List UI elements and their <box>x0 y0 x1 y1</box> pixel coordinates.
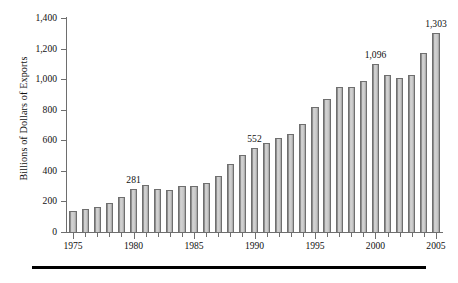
x-tick-mark <box>109 233 110 237</box>
y-tick-label: 200 <box>43 196 57 206</box>
x-tick-label: 1985 <box>174 241 214 251</box>
x-tick-mark <box>339 233 340 237</box>
y-tick-mark <box>61 18 66 19</box>
bar <box>275 138 282 232</box>
x-tick-label: 2000 <box>355 241 395 251</box>
y-tick-mark <box>61 201 66 202</box>
bar <box>118 197 125 232</box>
bar <box>69 211 76 232</box>
bar-value-label: 552 <box>233 134 277 144</box>
y-tick-label: 1,000 <box>35 74 57 84</box>
bar <box>348 87 355 232</box>
x-tick-mark <box>182 233 183 237</box>
x-tick-mark <box>363 233 364 237</box>
bar <box>372 64 379 232</box>
x-tick-mark <box>436 233 437 239</box>
bar <box>251 148 258 232</box>
x-tick-label: 1995 <box>295 241 335 251</box>
y-tick-mark <box>61 140 66 141</box>
x-tick-label: 1980 <box>114 241 154 251</box>
bar <box>408 75 415 232</box>
bar <box>239 155 246 232</box>
x-tick-mark <box>327 233 328 237</box>
bar <box>384 75 391 232</box>
x-tick-mark <box>158 233 159 237</box>
x-tick-mark <box>412 233 413 237</box>
x-tick-mark <box>85 233 86 237</box>
bar <box>420 53 427 232</box>
bar <box>166 190 173 232</box>
bar <box>396 78 403 232</box>
y-tick-mark <box>61 49 66 50</box>
x-tick-mark <box>303 233 304 237</box>
x-tick-mark <box>291 233 292 237</box>
y-tick-label: 400 <box>43 166 57 176</box>
x-tick-mark <box>206 233 207 237</box>
bar <box>130 189 137 232</box>
x-tick-mark <box>73 233 74 239</box>
bar <box>106 203 113 232</box>
y-tick-mark <box>61 232 66 233</box>
x-tick-mark <box>242 233 243 237</box>
x-tick-mark <box>279 233 280 237</box>
bar <box>336 87 343 232</box>
x-tick-label: 1975 <box>53 241 93 251</box>
bar <box>227 164 234 232</box>
x-tick-mark <box>218 233 219 237</box>
x-tick-mark <box>255 233 256 239</box>
bottom-rule <box>32 266 426 269</box>
bar <box>432 33 439 232</box>
x-tick-mark <box>351 233 352 237</box>
x-tick-label: 1990 <box>235 241 275 251</box>
y-tick-label: 0 <box>52 227 57 237</box>
bar <box>178 186 185 232</box>
y-tick-label: 600 <box>43 135 57 145</box>
bar <box>360 81 367 232</box>
bar <box>299 124 306 232</box>
bar <box>142 185 149 232</box>
x-tick-label: 2005 <box>416 241 456 251</box>
y-tick-label: 800 <box>43 105 57 115</box>
y-tick-mark <box>61 79 66 80</box>
x-tick-mark <box>146 233 147 237</box>
bar <box>154 189 161 232</box>
y-tick-mark <box>61 171 66 172</box>
bar <box>323 99 330 232</box>
x-tick-mark <box>315 233 316 239</box>
bar <box>311 107 318 232</box>
x-tick-mark <box>97 233 98 237</box>
x-tick-mark <box>230 233 231 237</box>
x-tick-mark <box>400 233 401 237</box>
bar <box>82 209 89 232</box>
bar <box>263 143 270 232</box>
bar-value-label: 1,303 <box>414 19 458 29</box>
bar <box>190 186 197 232</box>
bar-value-label: 1,096 <box>353 50 397 60</box>
x-tick-mark <box>170 233 171 237</box>
x-tick-mark <box>194 233 195 239</box>
y-tick-mark <box>61 110 66 111</box>
y-tick-label: 1,200 <box>35 44 57 54</box>
y-axis-title: Billions of Dollars of Exports <box>18 9 29 229</box>
x-tick-mark <box>388 233 389 237</box>
bar <box>203 183 210 232</box>
x-tick-mark <box>375 233 376 239</box>
x-tick-mark <box>424 233 425 237</box>
bar <box>287 134 294 232</box>
x-tick-mark <box>121 233 122 237</box>
bar-value-label: 281 <box>112 175 156 185</box>
bar <box>94 207 101 232</box>
x-tick-mark <box>267 233 268 237</box>
bar <box>215 176 222 232</box>
y-tick-label: 1,400 <box>35 13 57 23</box>
bar-chart-figure: Billions of Dollars of Exports 020040060… <box>0 0 458 283</box>
x-tick-mark <box>134 233 135 239</box>
